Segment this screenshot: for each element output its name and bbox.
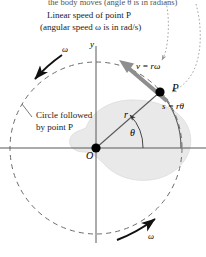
radius-label: r	[124, 110, 128, 121]
caption-line-2: (angular speed ω is in rad/s)	[40, 23, 141, 32]
cut-off-caption: the body moves (angle θ is in radians)	[48, 0, 177, 7]
origin-label: O	[86, 151, 93, 162]
velocity-equation-label: v = rω	[136, 62, 160, 71]
omega-label-top-left: ω	[62, 45, 68, 54]
caption-line-1: Linear speed of point P	[47, 11, 131, 20]
point-p-marker	[155, 87, 164, 96]
y-axis-label: y	[90, 40, 94, 49]
leader-dotted-velocity	[162, 2, 168, 60]
leader-dotted-arc	[172, 4, 200, 92]
circle-note-line-1: Circle followed	[36, 111, 92, 120]
diagram-canvas	[0, 0, 206, 257]
arc-equation-label: s = rθ	[162, 102, 184, 111]
theta-label: θ	[130, 128, 135, 139]
point-p-label: P	[172, 82, 179, 94]
omega-arrow-top-left	[35, 55, 62, 79]
rotational-motion-figure: the body moves (angle θ is in radians) L…	[0, 0, 206, 257]
omega-label-bottom-right: ω	[148, 232, 154, 241]
leader-circle-note	[22, 104, 32, 117]
circle-note-line-2: by point P	[36, 123, 73, 132]
